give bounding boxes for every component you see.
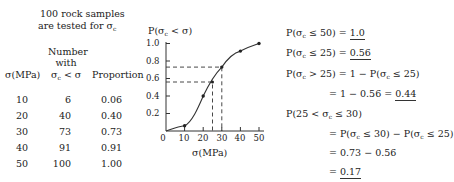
- equation-3: P(σc > 25) = 1 − P(σc ≤ 25): [286, 69, 420, 80]
- equation-8: = 0.17: [329, 167, 361, 177]
- x-tick-label: 10: [176, 134, 192, 143]
- y-tick-label: 0.8: [146, 57, 160, 66]
- y-tick-label: 0.6: [146, 74, 160, 83]
- chart-y-label: P(σc < σ): [148, 26, 192, 37]
- x-tick-label: 0: [155, 134, 171, 143]
- x-tick-label: 50: [251, 134, 267, 143]
- x-tick-label: 40: [232, 134, 248, 143]
- equation-4: = 1 − 0.56 = 0.44: [329, 89, 416, 99]
- y-tick-label: 0.2: [146, 109, 160, 118]
- equation-7: = 0.73 − 0.56: [329, 148, 396, 158]
- y-tick-label: 0.4: [146, 92, 160, 101]
- equation-5: P(25 < σc ≤ 30): [286, 109, 362, 120]
- chart-x-label: σ(MPa): [192, 148, 227, 158]
- guide-25: [166, 82, 213, 131]
- equation-1: P(σc ≤ 50) = 1.0: [286, 28, 365, 39]
- y-tick-label: 1.0: [146, 39, 160, 48]
- equation-6: = P(σc ≤ 30) − P(σc ≤ 25): [329, 129, 454, 140]
- x-tick-label: 30: [214, 134, 230, 143]
- x-tick-label: 20: [195, 134, 211, 143]
- equation-2: P(σc ≤ 25) = 0.56: [286, 48, 371, 59]
